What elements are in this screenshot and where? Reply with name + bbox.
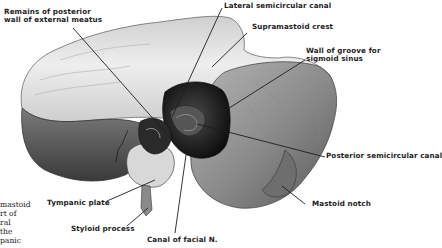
caption-line: mastoid	[0, 200, 31, 209]
label-remains-posterior-wall: Remains of posterior wall of external me…	[4, 8, 88, 25]
label-tympanic-plate: Tympanic plate	[47, 199, 110, 207]
left-caption-fragment: mastoid rt of ral the panic	[0, 200, 31, 245]
label-wall-of-groove: Wall of groove for sigmoid sinus	[306, 47, 381, 64]
styloid-shape	[141, 185, 152, 216]
label-supramastoid-crest: Supramastoid crest	[252, 23, 333, 31]
label-line-2: wall of external meatus	[4, 16, 88, 24]
label-mastoid-notch: Mastoid notch	[312, 200, 371, 208]
label-styloid-process: Styloid process	[71, 225, 135, 233]
label-canal-of-facial-n: Canal of facial N.	[147, 236, 218, 244]
label-posterior-semicircular-canal: Posterior semicircular canal	[326, 152, 442, 160]
caption-line: the	[0, 227, 31, 236]
caption-line: panic	[0, 236, 31, 245]
leader-canal-facial-n	[175, 148, 187, 233]
caption-line: ral	[0, 218, 31, 227]
label-lateral-semicircular-canal: Lateral semicircular canal	[224, 2, 331, 10]
caption-line: rt of	[0, 209, 31, 218]
label-line-2: sigmoid sinus	[306, 55, 381, 63]
